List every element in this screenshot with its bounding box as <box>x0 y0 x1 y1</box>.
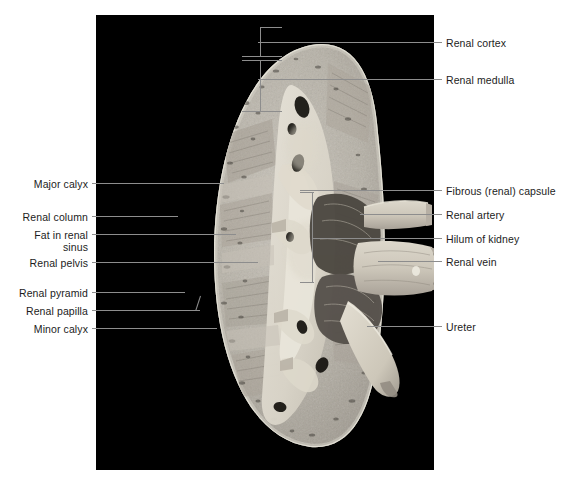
label-fat-in-renal-sinus-line2: sinus <box>0 241 88 253</box>
medulla-bracket-tick-bottom <box>242 111 282 112</box>
medulla-bracket-tick-top <box>242 60 282 61</box>
photo-panel <box>96 15 434 470</box>
leader-renal-pyramid <box>92 292 185 293</box>
leader-renal-medulla <box>258 79 442 80</box>
label-major-calyx: Major calyx <box>0 178 88 190</box>
cortex-bracket-tick-top <box>260 27 282 28</box>
leader-renal-vein <box>378 261 442 262</box>
label-renal-papilla: Renal papilla <box>0 305 88 317</box>
label-renal-pelvis: Renal pelvis <box>0 257 88 269</box>
label-hilum-of-kidney: Hilum of kidney <box>446 233 519 245</box>
leader-ureter <box>367 326 442 327</box>
leader-minor-calyx <box>92 328 217 329</box>
label-renal-pyramid: Renal pyramid <box>0 287 88 299</box>
leader-renal-pelvis <box>92 262 258 263</box>
leader-renal-cortex <box>258 42 442 43</box>
cortex-bracket-tick-bottom <box>242 56 282 57</box>
label-renal-vein: Renal vein <box>446 256 497 268</box>
leader-renal-papilla <box>92 310 200 311</box>
renal-vein-structure <box>354 241 435 296</box>
leader-fibrous-renal-capsule <box>300 190 442 191</box>
leader-hilum-of-kidney <box>312 238 442 239</box>
leader-major-calyx <box>92 183 224 184</box>
leader-fat-in-renal-sinus <box>92 234 236 235</box>
label-renal-medulla: Renal medulla <box>446 74 514 86</box>
hilum-bracket-tick-top <box>300 192 314 193</box>
label-minor-calyx: Minor calyx <box>0 323 88 335</box>
kidney-specimen-photograph <box>96 15 434 470</box>
hilum-bracket-tick-bottom <box>300 282 314 283</box>
label-renal-column: Renal column <box>0 211 88 223</box>
renal-artery-structure <box>364 201 430 229</box>
label-renal-cortex: Renal cortex <box>446 37 506 49</box>
anatomy-plate: Major calyx Renal column Fat in renal si… <box>0 0 570 486</box>
medulla-bracket-rule <box>260 60 261 112</box>
label-fibrous-renal-capsule: Fibrous (renal) capsule <box>446 185 556 197</box>
label-fat-in-renal-sinus-line1: Fat in renal <box>0 229 88 241</box>
leader-renal-column <box>92 216 178 217</box>
label-renal-artery: Renal artery <box>446 209 504 221</box>
label-ureter: Ureter <box>446 321 476 333</box>
leader-renal-artery <box>360 214 442 215</box>
